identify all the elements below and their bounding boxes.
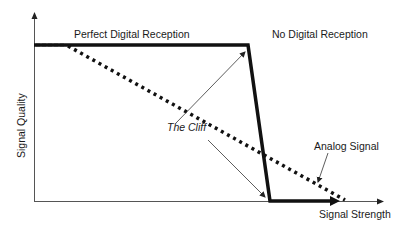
y-axis-label: Signal Quality — [16, 93, 27, 158]
label-perfect-digital-reception: Perfect Digital Reception — [74, 29, 190, 40]
analog-signal-arrow — [318, 153, 328, 182]
label-the-cliff: The Cliff — [167, 122, 206, 133]
label-no-digital-reception: No Digital Reception — [272, 29, 368, 40]
label-analog-signal: Analog Signal — [314, 141, 379, 152]
x-axis-label: Signal Strength — [319, 209, 391, 220]
signal-quality-diagram: Perfect Digital Reception No Digital Rec… — [0, 0, 403, 228]
